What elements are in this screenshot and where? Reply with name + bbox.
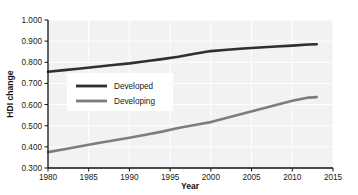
y-tick-label: 0.700: [22, 79, 43, 88]
legend-label-developing: Developing: [114, 97, 155, 106]
y-tick-label: 1.000: [22, 16, 43, 25]
y-tick-label: 0.400: [22, 143, 43, 152]
legend-label-developed: Developed: [114, 82, 154, 91]
x-tick-label: 1985: [80, 173, 99, 182]
chart-figure: 19801985199019952000200520102015 0.3000.…: [0, 0, 358, 195]
x-tick-label: 2015: [324, 173, 343, 182]
x-tick-label: 2005: [242, 173, 261, 182]
x-tick-label: 2010: [283, 173, 302, 182]
x-tick-label: 1995: [161, 173, 180, 182]
y-tick-label: 0.900: [22, 37, 43, 46]
x-tick-label: 1990: [120, 173, 139, 182]
x-tick-label: 2000: [202, 173, 221, 182]
y-tick-label: 0.800: [22, 58, 43, 67]
x-axis-title: Year: [181, 181, 200, 191]
chart-legend: DevelopedDeveloping: [67, 73, 173, 111]
y-tick-label: 0.300: [22, 164, 43, 173]
y-tick-label: 0.500: [22, 122, 43, 131]
x-tick-label: 1980: [39, 173, 58, 182]
y-tick-label: 0.600: [22, 101, 43, 110]
hdi-change-line-chart: 19801985199019952000200520102015 0.3000.…: [0, 0, 358, 195]
y-axis-title: HDI change: [5, 70, 15, 117]
